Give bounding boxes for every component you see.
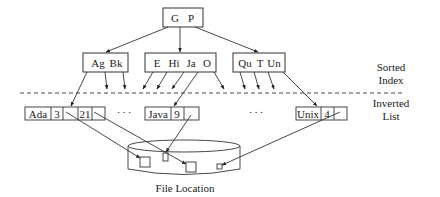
node-key: Un [267,57,281,69]
root-edges [106,27,258,52]
root-key-1: P [188,12,194,24]
node-key: Bk [110,57,123,69]
node-key: Ja [186,57,195,69]
list-pointer-edges [71,72,317,106]
internal-node-qu-t-un: Qu T Un [233,53,285,72]
ada-posting-value: 21 [80,108,91,120]
file-block-2 [163,153,168,161]
leaf-pointer-arrows [105,72,274,89]
root-node: G P [163,8,203,27]
node-key: Qu [238,57,252,69]
ellipsis-1: . . . [117,103,131,115]
layer-labels: Sorted Index Inverted List [373,61,410,122]
node-key: T [257,57,264,69]
internal-node-ag-bk: Ag Bk [83,53,128,72]
file-block-3 [186,162,196,172]
file-location-label: File Location [156,182,215,194]
term-java: Java [148,108,168,120]
java-posting-count: 9 [174,108,180,120]
ada-posting-count: 3 [54,108,60,120]
node-key: O [203,57,211,69]
b-tree-inverted-index-diagram: G P Ag Bk E Hi Ja O Qu T Un [0,0,440,197]
node-key: Hi [169,57,180,69]
file-block-1 [140,157,150,167]
file-block-4 [217,164,222,169]
inverted-list-label-1: Inverted [373,97,410,109]
sorted-index-label-2: Index [378,74,404,86]
root-key-0: G [171,12,179,24]
internal-node-e-hi-ja-o: E Hi Ja O [145,53,216,72]
ellipsis-2: . . . [249,103,263,115]
term-ada: Ada [29,108,47,120]
node-key: E [154,57,161,69]
term-unix: Unix [297,108,320,120]
inverted-list-label-2: List [382,110,399,122]
node-key: Ag [91,57,105,69]
sorted-index-label-1: Sorted [377,61,406,73]
